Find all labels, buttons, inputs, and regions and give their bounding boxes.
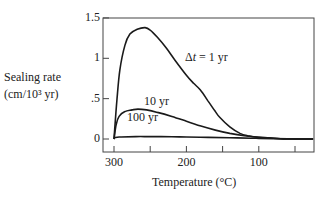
curve-series-2 <box>114 137 313 139</box>
y-tick-label: 1 <box>78 50 100 65</box>
y-tick-label: 1.5 <box>78 10 100 25</box>
x-tick-label: 300 <box>99 155 129 170</box>
plot-frame <box>103 18 314 152</box>
axis-ticks <box>103 18 295 152</box>
y-axis-label-line-2: (cm/10³ yr) <box>4 86 61 103</box>
series-label-2: 100 yr <box>127 110 158 125</box>
y-axis-label-line-1: Sealing rate <box>4 69 61 86</box>
x-tick-label: 200 <box>171 155 201 170</box>
x-tick-label: 100 <box>244 155 274 170</box>
x-axis-label: Temperature (°C) <box>152 175 236 190</box>
y-tick-label: .5 <box>78 91 100 106</box>
y-axis-label: Sealing rate (cm/10³ yr) <box>4 69 61 103</box>
y-tick-label: 0 <box>78 131 100 146</box>
series-label-1: 10 yr <box>144 94 169 109</box>
series-label-0: Δt = 1 yr <box>185 50 228 65</box>
